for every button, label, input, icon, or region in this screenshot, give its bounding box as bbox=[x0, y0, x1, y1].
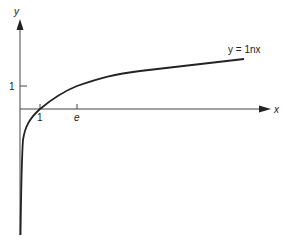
curve-label: y = 1nx bbox=[228, 44, 261, 55]
y-tick-label-1: 1 bbox=[9, 81, 15, 92]
ln-graph: y x 1 1 e y = 1nx bbox=[0, 0, 284, 245]
y-axis-arrow-icon bbox=[17, 19, 24, 30]
ln-curve bbox=[21, 59, 245, 235]
x-axis-label: x bbox=[273, 104, 280, 115]
x-axis-arrow-icon bbox=[259, 106, 271, 113]
x-tick-label-e: e bbox=[74, 112, 80, 123]
y-axis-label: y bbox=[13, 6, 20, 17]
x-tick-label-1: 1 bbox=[37, 112, 43, 123]
